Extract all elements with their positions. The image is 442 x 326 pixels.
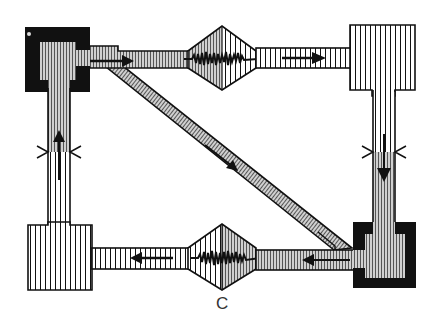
bottom-channel-right <box>256 250 356 270</box>
left-vertical-channel <box>37 88 81 227</box>
flow-diagram: C <box>0 0 442 326</box>
top-right-reservoir <box>350 25 415 96</box>
bottom-diamond-chamber <box>188 224 260 290</box>
top-channel-right <box>256 48 352 68</box>
top-left-reservoir <box>25 27 90 92</box>
diagonal-channel <box>100 62 352 254</box>
diagram-canvas <box>0 0 442 326</box>
top-diamond-chamber <box>184 26 258 90</box>
figure-label: C <box>216 294 228 314</box>
right-vertical-channel <box>362 90 406 224</box>
bottom-channel-left <box>92 248 190 269</box>
bottom-left-reservoir <box>28 222 92 290</box>
top-channel-left <box>88 46 195 68</box>
bottom-right-reservoir <box>353 222 416 288</box>
